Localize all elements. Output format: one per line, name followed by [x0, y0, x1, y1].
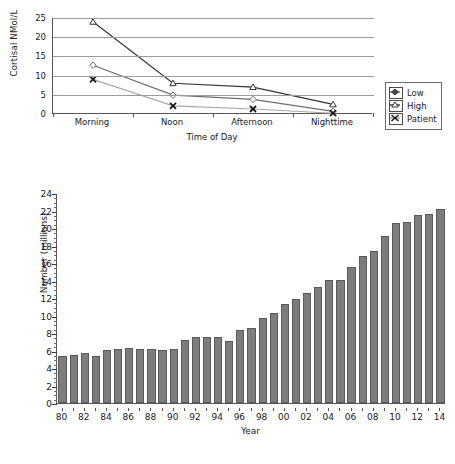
- bar-chart-x-tick-14: 14: [434, 412, 445, 422]
- bar-chart-x-tickmark: [251, 408, 252, 411]
- bar-chart-major-tick: [52, 299, 57, 300]
- number-millions-bar-chart: Number (millions) 024681012141618202224 …: [0, 160, 455, 464]
- bar-84: [103, 350, 111, 403]
- legend-item-patient[interactable]: Patient: [389, 113, 437, 125]
- line-chart-x-axis-label: Time of Day: [52, 132, 372, 142]
- bar-chart-x-tickmark: [239, 408, 240, 411]
- legend-item-low[interactable]: Low: [389, 87, 437, 99]
- bar-chart-x-tick-96: 96: [234, 412, 245, 422]
- bar-chart-x-tick-04: 04: [323, 412, 334, 422]
- line-chart-legend: LowHighPatient: [385, 82, 442, 130]
- bar-chart-x-tick-86: 86: [123, 412, 134, 422]
- bar-82: [81, 353, 89, 403]
- legend-label: Patient: [407, 114, 437, 124]
- line-chart-x-tick-labels: MorningNoonAfternoonNighttime: [52, 117, 372, 131]
- bar-86: [125, 348, 133, 403]
- bar-00: [281, 304, 289, 403]
- bar-04: [325, 280, 333, 403]
- bar-91: [181, 340, 189, 403]
- bar-chart-minor-tick: [54, 321, 57, 322]
- line-chart-y-tick: 15: [18, 52, 46, 60]
- bar-chart-major-tick: [52, 212, 57, 213]
- bar-chart-x-tick-12: 12: [411, 412, 422, 422]
- bar-07: [359, 256, 367, 403]
- bar-chart-x-tickmark: [406, 408, 407, 411]
- bar-chart-minor-tick: [54, 303, 57, 304]
- bar-chart-y-tick: 12: [22, 295, 52, 304]
- bar-chart-minor-tick: [54, 255, 57, 256]
- bar-14: [436, 209, 444, 403]
- bar-08: [370, 251, 378, 403]
- bar-chart-major-tick: [52, 404, 57, 405]
- bar-94: [214, 337, 222, 404]
- bar-chart-x-tick-08: 08: [367, 412, 378, 422]
- line-chart-title: [60, 0, 360, 10]
- bar-chart-x-tickmark: [417, 408, 418, 411]
- line-chart-x-tick-morning: Morning: [75, 117, 109, 127]
- bar-chart-minor-tick: [54, 220, 57, 221]
- bar-chart-minor-tick: [54, 378, 57, 379]
- bar-chart-x-tickmark: [362, 408, 363, 411]
- legend-item-high[interactable]: High: [389, 100, 437, 112]
- line-chart-x-tickmark: [373, 113, 374, 117]
- bar-chart-x-tickmark: [128, 408, 129, 411]
- bar-chart-y-tick: 14: [22, 277, 52, 286]
- bar-chart-x-tickmark: [117, 408, 118, 411]
- bar-chart-x-tickmark: [84, 408, 85, 411]
- bar-chart-x-tick-80: 80: [56, 412, 67, 422]
- bar-chart-x-tickmark: [106, 408, 107, 411]
- bar-chart-y-tick: 10: [22, 312, 52, 321]
- line-series-low: [93, 65, 333, 111]
- bar-chart-x-tick-10: 10: [389, 412, 400, 422]
- bar-chart-x-tickmark: [395, 408, 396, 411]
- bar-chart-x-tick-02: 02: [300, 412, 311, 422]
- bar-92: [192, 337, 200, 403]
- bar-chart-y-tick: 8: [22, 330, 52, 339]
- line-chart-y-tick: 5: [18, 91, 46, 99]
- bar-chart-minor-tick: [54, 343, 57, 344]
- bar-chart-plot-area: [56, 194, 445, 404]
- bar-chart-minor-tick: [54, 286, 57, 287]
- bar-chart-y-tick: 22: [22, 207, 52, 216]
- bar-chart-x-tickmark: [62, 408, 63, 411]
- bar-chart-x-tickmark: [339, 408, 340, 411]
- bar-88: [147, 349, 155, 403]
- bar-02: [303, 293, 311, 403]
- line-chart-x-tick-nighttime: Nighttime: [311, 117, 353, 127]
- bar-chart-x-tickmark: [273, 408, 274, 411]
- bar-chart-x-tickmark: [162, 408, 163, 411]
- bar-99: [270, 313, 278, 403]
- bar-chart-minor-tick: [54, 360, 57, 361]
- bar-chart-minor-tick: [54, 242, 57, 243]
- line-marker-triangle: [90, 19, 96, 25]
- bar-80: [58, 356, 66, 403]
- bar-chart-x-tick-82: 82: [78, 412, 89, 422]
- bar-chart-major-tick: [52, 334, 57, 335]
- bar-chart-y-tick: 2: [22, 382, 52, 391]
- line-chart-y-tick: 0: [18, 110, 46, 118]
- bar-chart-y-tick: 6: [22, 347, 52, 356]
- line-chart-series-svg: [53, 18, 373, 114]
- bar-chart-x-tick-88: 88: [145, 412, 156, 422]
- bar-chart-major-tick: [52, 229, 57, 230]
- bar-chart-x-tick-labels: 808284868890929496980002040608101214: [56, 408, 445, 422]
- line-chart-y-tick: 25: [18, 14, 46, 22]
- bar-06: [347, 267, 355, 404]
- bar-chart-x-axis-label: Year: [56, 426, 445, 436]
- bar-chart-x-tick-84: 84: [100, 412, 111, 422]
- line-chart-y-tick: 10: [18, 72, 46, 80]
- bar-chart-y-tick: 24: [22, 190, 52, 199]
- line-chart-gridline: [53, 18, 374, 19]
- bar-81: [70, 355, 78, 403]
- bar-chart-x-tickmark: [206, 408, 207, 411]
- bar-chart-minor-tick: [54, 268, 57, 269]
- bar-chart-major-tick: [52, 282, 57, 283]
- bar-chart-minor-tick: [54, 338, 57, 339]
- line-chart-plot-area: [52, 18, 372, 114]
- bar-10: [392, 223, 400, 403]
- bar-chart-x-tick-92: 92: [189, 412, 200, 422]
- bar-chart-minor-tick: [54, 373, 57, 374]
- line-marker-x: [90, 76, 96, 82]
- bar-96: [236, 330, 244, 403]
- bar-chart-minor-tick: [54, 312, 57, 313]
